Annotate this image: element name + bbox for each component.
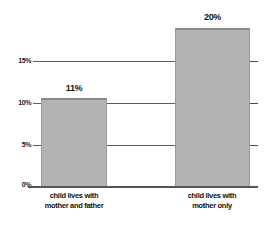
data-label-bar-1: 11% [41, 83, 107, 93]
bar-child-lives-with-mother-only [175, 28, 250, 186]
ytick-right-15 [250, 61, 258, 62]
bar-chart: 15% 10% 5% 0% 11% 20% child lives with m… [0, 0, 264, 227]
bar-child-lives-with-mother-and-father [41, 98, 107, 186]
category-label-1: child lives with mother and father [20, 191, 128, 211]
category-label-2-line-2: mother only [158, 201, 264, 211]
category-label-1-line-1: child lives with [20, 191, 128, 201]
x-axis-baseline [28, 186, 258, 188]
plot-area: 15% 10% 5% 0% 11% 20% child lives with m… [0, 0, 264, 227]
category-label-2-line-1: child lives with [158, 191, 264, 201]
category-label-1-line-2: mother and father [20, 201, 128, 211]
ytick-label-15: 15% [5, 57, 31, 65]
ytick-mark-5 [33, 145, 41, 146]
ytick-label-5: 5% [5, 141, 31, 149]
ytick-mark-15 [33, 61, 41, 62]
data-label-bar-2: 20% [175, 12, 250, 22]
ytick-mark-10 [33, 103, 41, 104]
ytick-label-10: 10% [5, 99, 31, 107]
category-label-2: child lives with mother only [158, 191, 264, 211]
ytick-right-10 [250, 103, 258, 104]
ytick-right-5 [250, 145, 258, 146]
